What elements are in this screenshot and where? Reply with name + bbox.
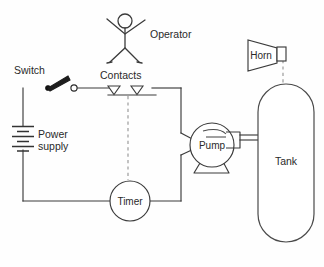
operator-legs [110,48,139,62]
schematic-diagram: Switch Power supply Contacts [0,0,324,267]
power-supply-component: Power supply [12,127,69,153]
horn-driver-box [277,47,286,61]
operator-foot-left [107,62,112,63]
contact-triangle-left[interactable] [108,86,120,95]
operator-head [118,14,132,28]
operator-foot-right [137,62,142,63]
operator-label: Operator [150,28,192,40]
schematic-canvas: Switch Power supply Contacts [0,0,324,267]
contacts-component[interactable]: Contacts [100,69,156,95]
power-supply-label-line1: Power [38,128,68,140]
horn-component[interactable]: Horn [248,40,286,71]
switch-blade[interactable] [48,76,70,91]
tank-component[interactable]: Tank [258,84,314,242]
horn-label: Horn [250,50,272,61]
pump-component[interactable]: Pump [181,123,240,173]
tank-label: Tank [275,155,298,167]
pump-label: Pump [199,140,226,151]
operator-figure: Operator [107,14,192,63]
power-supply-label-line2: supply [38,140,69,152]
timer-component[interactable]: Timer [110,181,150,221]
switch-component[interactable]: Switch [14,64,77,91]
contact-triangle-right[interactable] [131,86,143,95]
switch-terminal-circle [71,85,77,91]
contacts-label: Contacts [100,69,141,81]
switch-label: Switch [14,64,45,76]
operator-arms [107,19,145,34]
timer-label: Timer [117,196,143,207]
